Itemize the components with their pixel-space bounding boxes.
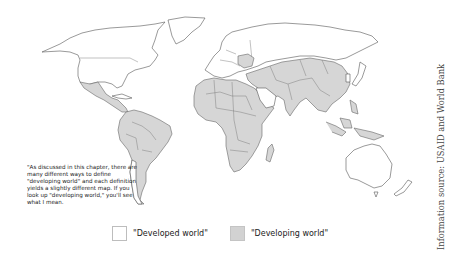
region-new-zealand: [394, 180, 412, 196]
legend-item-developed: "Developed world": [112, 226, 208, 241]
developed-swatch: [112, 226, 127, 241]
legend-item-developing: "Developing world": [230, 226, 328, 241]
region-indonesia: [326, 118, 384, 140]
region-madagascar: [266, 144, 274, 162]
source-text: Information source: USAID and World Bank: [436, 64, 446, 250]
region-korea: [346, 74, 350, 82]
region-caribbean: [112, 94, 132, 99]
region-japan: [352, 62, 366, 86]
legend: "Developed world" "Developing world": [112, 226, 350, 241]
region-tasmania: [374, 192, 378, 197]
region-australia: [346, 144, 392, 188]
legend-label-developing: "Developing world": [251, 229, 328, 238]
developing-swatch: [230, 226, 245, 241]
source-credit: Information source: USAID and World Bank: [436, 70, 448, 250]
region-greenland: [168, 17, 205, 44]
region-eastern-europe: [238, 54, 254, 68]
annotation-note: "As discussed in this chapter, there are…: [27, 164, 139, 207]
legend-label-developed: "Developed world": [133, 229, 208, 238]
region-philippines: [350, 100, 358, 114]
region-canada-usa: [42, 22, 165, 88]
